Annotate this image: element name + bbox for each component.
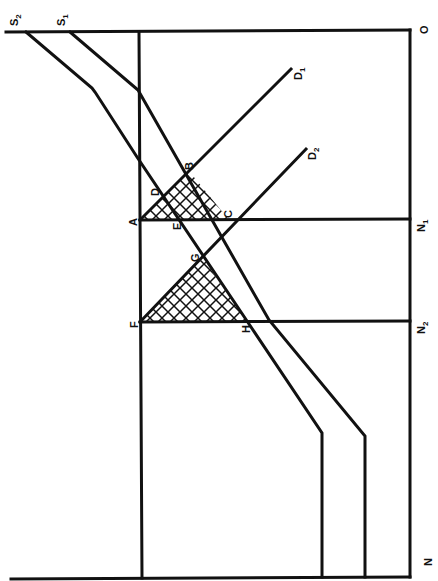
label-d: D [149, 188, 161, 196]
label-e: E [171, 223, 183, 230]
label-f: F [128, 321, 140, 328]
svg-text:N2: N2 [415, 321, 430, 334]
svg-text:D2: D2 [306, 147, 321, 160]
svg-text:O: O [418, 25, 430, 34]
svg-text:C: C [222, 210, 234, 218]
n2-line [140, 321, 410, 322]
label-n-axis: N [422, 558, 434, 566]
label-a: A [127, 218, 139, 226]
label-b: B [183, 162, 195, 170]
svg-text:D: D [149, 188, 161, 196]
label-origin: O [418, 25, 430, 34]
label-n1: N1 [415, 219, 430, 232]
svg-text:S1: S1 [55, 14, 70, 26]
svg-text:N: N [422, 558, 434, 566]
label-s1: S1 [55, 14, 70, 26]
svg-text:H: H [240, 325, 252, 333]
label-d1: D1 [292, 67, 307, 80]
svg-text:D1: D1 [292, 67, 307, 80]
label-d2: D2 [306, 147, 321, 160]
label-h: H [240, 325, 252, 333]
price-level-line [139, 32, 142, 578]
svg-text:E: E [171, 223, 183, 230]
label-s2: S2 [8, 14, 23, 26]
economic-diagram: S2 S1 O D1 D2 B D A E C G F H N1 N2 N [0, 0, 438, 581]
svg-text:F: F [128, 321, 140, 328]
top-axis-line [6, 30, 410, 32]
bottom-axis-line [11, 577, 410, 579]
svg-text:S2: S2 [8, 14, 23, 26]
svg-text:N1: N1 [415, 219, 430, 232]
demand-curve-d1 [140, 69, 291, 220]
label-c: C [222, 210, 234, 218]
svg-text:G: G [189, 253, 201, 262]
svg-text:B: B [183, 162, 195, 170]
label-n2: N2 [415, 321, 430, 334]
svg-text:A: A [127, 218, 139, 226]
label-g: G [189, 253, 201, 262]
